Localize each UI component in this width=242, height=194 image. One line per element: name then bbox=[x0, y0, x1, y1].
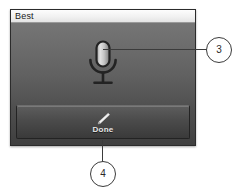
title-bar: Best bbox=[11, 10, 195, 23]
device-panel: Best bbox=[10, 9, 196, 146]
done-button[interactable]: Done bbox=[16, 105, 190, 139]
done-button-label: Done bbox=[92, 125, 113, 134]
callout-number-4: 4 bbox=[100, 169, 106, 179]
callout-marker-4: 4 bbox=[90, 161, 116, 187]
callout-marker-3: 3 bbox=[206, 37, 232, 63]
window-title: Best bbox=[11, 10, 34, 23]
callout-number-3: 3 bbox=[216, 45, 222, 55]
pencil-icon bbox=[95, 111, 111, 124]
microphone-icon[interactable] bbox=[86, 40, 120, 86]
